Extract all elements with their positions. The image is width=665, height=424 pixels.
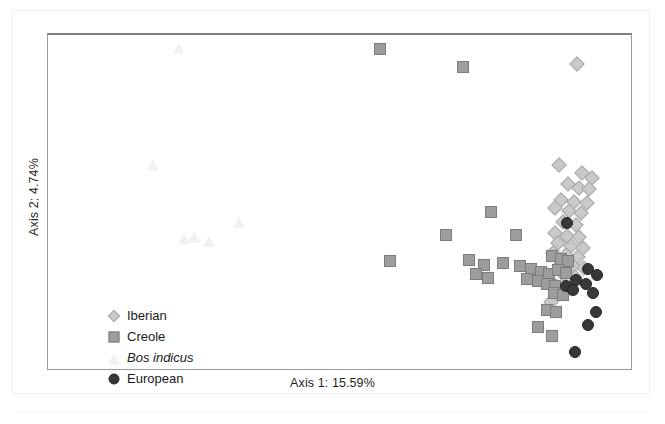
data-point-iberian [551,157,567,173]
data-point-european [569,346,581,358]
data-point-creole [440,229,452,241]
data-point-bos-indicus [233,217,245,228]
data-point-european [591,269,603,281]
data-point-creole [546,330,558,342]
data-point-creole [463,254,475,266]
data-point-creole [510,229,522,241]
data-point-creole [485,206,497,218]
data-point-european [590,306,602,318]
diamond-marker-icon [106,308,122,324]
data-point-creole [374,43,386,55]
legend-item-iberian[interactable]: Iberian [106,305,256,326]
legend-item-label: Bos indicus [127,350,193,366]
data-point-european [582,319,594,331]
data-point-creole [497,257,509,269]
plot-panel: IberianCreoleBos indicusEuropean [47,33,632,370]
data-point-creole [550,306,562,318]
data-point-european [561,217,573,229]
square-marker-icon [106,329,122,345]
data-point-european [587,287,599,299]
data-point-bos-indicus [203,235,215,246]
triangle-marker-icon [106,350,122,366]
figure-root: IberianCreoleBos indicusEuropean Axis 1:… [0,0,665,424]
y-axis-title: Axis 2: 4.74% [27,117,41,277]
data-point-bos-indicus [173,43,185,54]
legend-item-bos-indicus[interactable]: Bos indicus [106,347,256,368]
data-point-creole [470,268,482,280]
data-point-creole [482,272,494,284]
data-point-european [567,284,579,296]
data-point-bos-indicus [147,159,159,170]
figure-bottom-rule [18,412,644,413]
x-axis-title: Axis 1: 15.59% [0,376,665,390]
legend-item-label: Iberian [127,308,167,324]
data-point-iberian [570,56,586,72]
data-point-creole [384,255,396,267]
legend-item-creole[interactable]: Creole [106,326,256,347]
data-point-creole [457,61,469,73]
data-point-bos-indicus [188,232,200,243]
data-point-creole [532,321,544,333]
legend-item-label: Creole [127,329,165,345]
